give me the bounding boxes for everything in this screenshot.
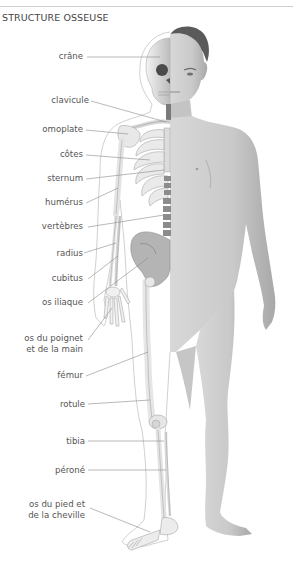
skeleton-body-figure xyxy=(0,0,293,572)
label-humerus: humérus xyxy=(45,197,83,208)
leader-line-os-poignet xyxy=(88,308,112,340)
label-omoplate: omoplate xyxy=(42,124,83,135)
label-cotes: côtes xyxy=(60,149,83,160)
label-os-iliaque: os iliaque xyxy=(42,297,83,308)
label-os-pied: os du pied et de la cheville xyxy=(28,499,85,521)
label-cubitus: cubitus xyxy=(52,273,83,284)
leader-line-os-pied xyxy=(90,508,150,532)
skeleton-half xyxy=(94,32,178,550)
label-vertebres: vertèbres xyxy=(42,221,83,232)
label-os-poignet: os du poignet et de la main xyxy=(24,333,83,355)
label-rotule: rotule xyxy=(60,399,85,410)
leader-line-cubitus xyxy=(88,256,118,279)
label-tibia: tibia xyxy=(66,436,85,447)
leader-line-rotule xyxy=(88,400,150,404)
label-perone: péroné xyxy=(55,465,85,476)
leader-line-vertebres xyxy=(88,215,164,227)
leader-line-humerus xyxy=(86,188,118,203)
label-crane: crâne xyxy=(59,51,83,62)
leader-line-femur xyxy=(86,352,148,376)
body-half xyxy=(170,27,275,536)
leader-line-radius xyxy=(84,243,116,253)
label-sternum: sternum xyxy=(47,173,83,184)
label-radius: radius xyxy=(56,248,83,259)
label-femur: fémur xyxy=(57,370,83,381)
label-clavicule: clavicule xyxy=(51,95,89,106)
leader-line-clavicule xyxy=(91,101,166,122)
